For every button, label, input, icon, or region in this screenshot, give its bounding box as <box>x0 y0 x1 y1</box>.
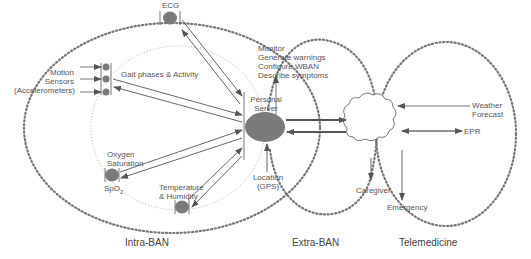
emergency-label: Emergency <box>387 203 427 212</box>
oxygen-saturation-label: Oxygen Saturation <box>107 150 143 168</box>
motion-label-line3: (Accelerometers) <box>14 86 74 95</box>
telemedicine-region-label: Telemedicine <box>399 238 457 247</box>
spo2-sensor-node <box>105 168 119 182</box>
server-functions-list: Monitor Generate warnings Configure WBAN… <box>258 44 328 80</box>
location-line2: (GPS) <box>248 182 288 191</box>
function-symptoms: Describe symptoms <box>258 71 328 80</box>
temperature-label: Temperature & Humidity <box>159 183 204 201</box>
location-line1: Location <box>248 173 288 182</box>
motion-label-line2: Sensors <box>14 77 74 86</box>
weather-line1: Weather <box>472 101 503 110</box>
server-line2: Server <box>246 104 286 113</box>
temp-line2: & Humidity <box>159 192 204 201</box>
personal-server-label: Personal Server <box>246 95 286 113</box>
intra-ban-region-label: Intra-BAN <box>125 238 169 247</box>
gait-label: Gait phases & Activity <box>121 70 198 79</box>
temperature-sensor-node <box>175 200 189 214</box>
motion-label-line1: Motion <box>14 68 74 77</box>
spo2-subscript: 2 <box>120 189 123 195</box>
spo2-text: SpO <box>104 184 120 193</box>
server-line1: Personal <box>246 95 286 104</box>
oxygen-line2: Saturation <box>107 159 143 168</box>
oxygen-line1: Oxygen <box>107 150 143 159</box>
internet-cloud-icon <box>343 93 396 141</box>
spo2-label: SpO2 <box>104 184 123 197</box>
extra-ban-region-label: Extra-BAN <box>292 238 339 247</box>
personal-server-node <box>244 76 285 160</box>
epr-label: EPR <box>464 127 480 136</box>
function-monitor: Monitor <box>258 44 328 53</box>
location-gps-label: Location (GPS) <box>248 173 288 191</box>
function-warnings: Generate warnings <box>258 53 328 62</box>
ecg-label: ECG <box>162 1 179 10</box>
weather-line2: Forecast <box>472 110 503 119</box>
function-configure: Configure WBAN <box>258 62 328 71</box>
telemedicine-boundary <box>376 42 516 226</box>
weather-forecast-label: Weather Forecast <box>472 101 503 119</box>
temp-line1: Temperature <box>159 183 204 192</box>
caregiver-label: Caregiver <box>356 186 391 195</box>
motion-sensors-label: Motion Sensors (Accelerometers) <box>14 68 74 95</box>
motion-sensor-nodes <box>80 63 111 96</box>
wban-architecture-diagram <box>0 0 531 259</box>
